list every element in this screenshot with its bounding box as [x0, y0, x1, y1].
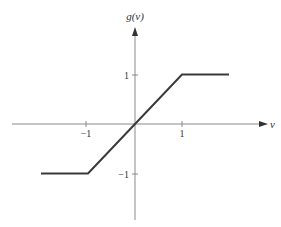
axes	[12, 27, 268, 220]
y-axis-arrow-icon	[132, 27, 138, 36]
y-tick-label-pos1: 1	[124, 70, 129, 81]
x-axis-arrow-icon	[259, 121, 268, 127]
saturation-function-chart: g(v) v −1 1 1 −1	[0, 0, 281, 227]
x-tick-label-pos1: 1	[180, 128, 185, 139]
y-axis-label: g(v)	[126, 10, 144, 23]
y-tick-label-neg1: −1	[118, 169, 129, 180]
x-axis-label: v	[270, 118, 275, 130]
x-tick-label-neg1: −1	[81, 128, 92, 139]
